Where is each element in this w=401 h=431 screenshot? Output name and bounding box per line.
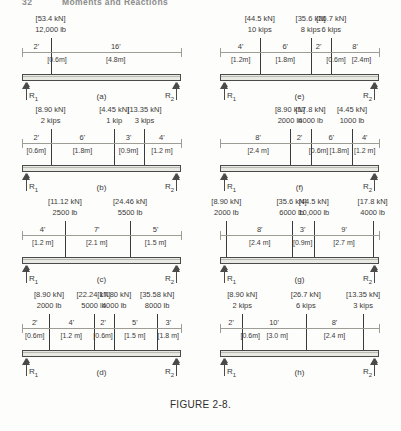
load-arrow [306, 314, 307, 350]
dimension-feet: 16' [111, 42, 121, 51]
dimension-metric: [2.7 m] [333, 239, 354, 246]
load-arrow [51, 129, 52, 165]
load-arrow [130, 221, 131, 257]
beam-panel-d: [8.90 kN]2000 lb[22.24 kN]5000 lb[17.80 … [4, 288, 199, 381]
panel-caption-a: (a) [4, 92, 199, 101]
dimension-tick [379, 139, 380, 148]
load-kn-label: [4.45 kN] [99, 105, 129, 114]
load-imperial-label: 2 kips [41, 116, 61, 125]
dimension-metric: [1.5 m] [124, 332, 145, 339]
dimension-tick [22, 324, 23, 333]
page-number: 32 [22, 0, 32, 7]
load-arrow [114, 129, 115, 165]
load-imperial-label: 4000 lb [102, 301, 127, 310]
dimension-feet: 8' [255, 133, 261, 142]
dimension-line [220, 143, 379, 144]
dimension-feet: 8' [352, 42, 358, 51]
dimension-metric: [1.8m] [73, 147, 92, 154]
beam-panel-h: [8.90 kN]2 kips[26.7 kN]6 kips[13.35 kN]… [202, 288, 397, 381]
load-kn-label: [24.46 kN] [113, 197, 147, 206]
dimension-feet: 9' [341, 225, 347, 234]
load-kn-label: [11.12 kN] [48, 197, 82, 206]
load-kn-label: [53.4 kN] [36, 14, 66, 23]
dimension-tick [181, 324, 182, 333]
load-arrow [65, 221, 66, 257]
beam [220, 74, 379, 81]
dimension-feet: 8' [332, 318, 338, 327]
load-kn-label: [8.90 kN] [36, 105, 66, 114]
load-kn-label: [44.5 kN] [245, 14, 275, 23]
dimension-tick [379, 324, 380, 333]
dimension-feet: 4' [362, 133, 368, 142]
dimension-line [22, 143, 181, 144]
dimension-metric: [0.6m] [47, 56, 66, 63]
dimension-tick [181, 231, 182, 240]
load-imperial-label: 2000 lb [37, 301, 62, 310]
running-head-title: Moments and Reactions [62, 0, 168, 7]
load-kn-label: [17.80 kN] [97, 290, 131, 299]
dimension-feet: 2' [316, 42, 322, 51]
load-imperial-label: 2000 lb [214, 208, 239, 217]
dimension-metric: [1.5 m] [145, 239, 166, 246]
beam-panel-c: [11.12 kN]2500 lb[24.46 kN]5500 lb4'7'5'… [4, 195, 199, 288]
dimension-metric: [0.6m] [326, 56, 345, 63]
load-imperial-label: 6 kips [322, 25, 342, 34]
dimension-feet: 2' [32, 318, 38, 327]
dimension-metric: [0.9m] [119, 147, 138, 154]
running-head: 32 Moments and Reactions [0, 0, 401, 9]
dimension-feet: 4' [40, 225, 46, 234]
beam [22, 74, 181, 81]
load-imperial-label: 4000 lb [360, 208, 385, 217]
dimension-tick [181, 139, 182, 148]
dimension-metric: [1.8 m] [158, 332, 179, 339]
dimension-feet: 6' [328, 133, 334, 142]
load-arrow [144, 129, 145, 165]
dimension-feet: 6' [282, 42, 288, 51]
beam-panel-e: [44.5 kN]10 kips[35.6 kN]8 kips[26.7 kN]… [202, 12, 397, 105]
dimension-metric: [1.2 m] [61, 332, 82, 339]
load-imperial-label: 2 kips [232, 301, 252, 310]
dimension-line [22, 235, 181, 236]
load-arrow [114, 314, 115, 350]
load-kn-label: [13.35 kN] [346, 290, 380, 299]
load-arrow [314, 221, 315, 257]
dimension-tick [22, 231, 23, 240]
load-kn-label: [4.45 kN] [337, 105, 367, 114]
dimension-tick [379, 48, 380, 57]
load-imperial-label: 6 kips [296, 301, 316, 310]
panel-caption-f: (f) [202, 183, 397, 192]
beam [22, 165, 181, 172]
dimension-metric: [4.8m] [106, 56, 125, 63]
dimension-feet: 4' [159, 133, 165, 142]
beam-diagram-grid: [53.4 kN]12,000 lb2'16'[0.6m][4.8m]R1R2(… [0, 12, 401, 397]
dimension-line [22, 328, 181, 329]
beam-panel-b: [8.90 kN]2 kips[4.45 kN]1 kip[13.35 kN]3… [4, 103, 199, 196]
beam [22, 257, 181, 264]
dimension-metric: [1.2m] [231, 56, 250, 63]
load-arrow [363, 314, 364, 350]
dimension-feet: 2' [297, 133, 303, 142]
dimension-feet: 2' [33, 133, 39, 142]
load-arrow [290, 129, 291, 165]
beam-panel-f: [8.90 kN]2000 lb[17.8 kN]4000 lb[4.45 kN… [202, 103, 397, 196]
dimension-metric: [2.4 m] [324, 332, 345, 339]
dimension-tick [220, 324, 221, 333]
load-kn-label: [17.8 kN] [296, 105, 326, 114]
dimension-metric: [1.8m] [275, 56, 294, 63]
load-kn-label: [8.90 kN] [211, 197, 241, 206]
dimension-feet: 4' [68, 318, 74, 327]
panel-caption-d: (d) [4, 368, 199, 377]
load-imperial-label: 1 kip [106, 116, 122, 125]
dimension-feet: 5' [132, 318, 138, 327]
dimension-feet: 10' [269, 318, 279, 327]
dimension-metric: [2.4 m] [247, 147, 268, 154]
load-kn-label: [44.5 kN] [299, 197, 329, 206]
dimension-feet: 2' [33, 42, 39, 51]
load-kn-label: [8.90 kN] [34, 290, 64, 299]
dimension-metric: [0.6m] [309, 147, 328, 154]
load-imperial-label: 1000 lb [340, 116, 365, 125]
load-imperial-label: 10 kips [248, 25, 272, 34]
dimension-tick [22, 48, 23, 57]
load-arrow [226, 221, 227, 257]
load-arrow [311, 38, 312, 74]
